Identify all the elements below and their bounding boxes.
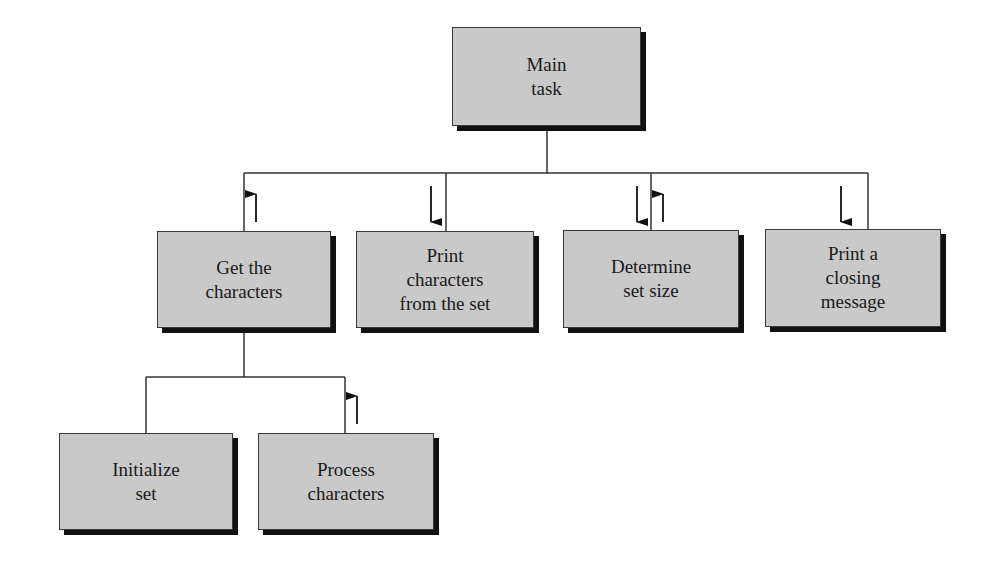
- node-initialize-set: Initialize set: [59, 433, 233, 530]
- node-label: Determine set size: [611, 255, 691, 303]
- node-label: Initialize set: [112, 458, 180, 506]
- node-label: Get the characters: [206, 256, 283, 304]
- node-label: Main task: [526, 53, 566, 101]
- node-label: Process characters: [308, 458, 385, 506]
- node-main-task: Main task: [452, 27, 641, 126]
- node-print-characters: Print characters from the set: [356, 231, 534, 328]
- node-print-closing-message: Print a closing message: [765, 229, 941, 327]
- node-get-characters: Get the characters: [157, 231, 331, 328]
- node-label: Print a closing message: [821, 242, 885, 314]
- node-process-characters: Process characters: [258, 433, 434, 530]
- node-label: Print characters from the set: [400, 244, 491, 316]
- node-determine-set-size: Determine set size: [563, 230, 739, 328]
